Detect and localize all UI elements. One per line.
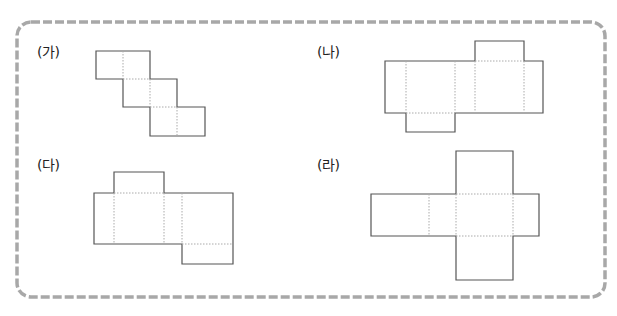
net-da [94,172,233,264]
net-na [385,41,543,132]
net-ga [96,51,205,136]
nets-canvas [0,0,617,316]
net-ra [371,151,539,280]
